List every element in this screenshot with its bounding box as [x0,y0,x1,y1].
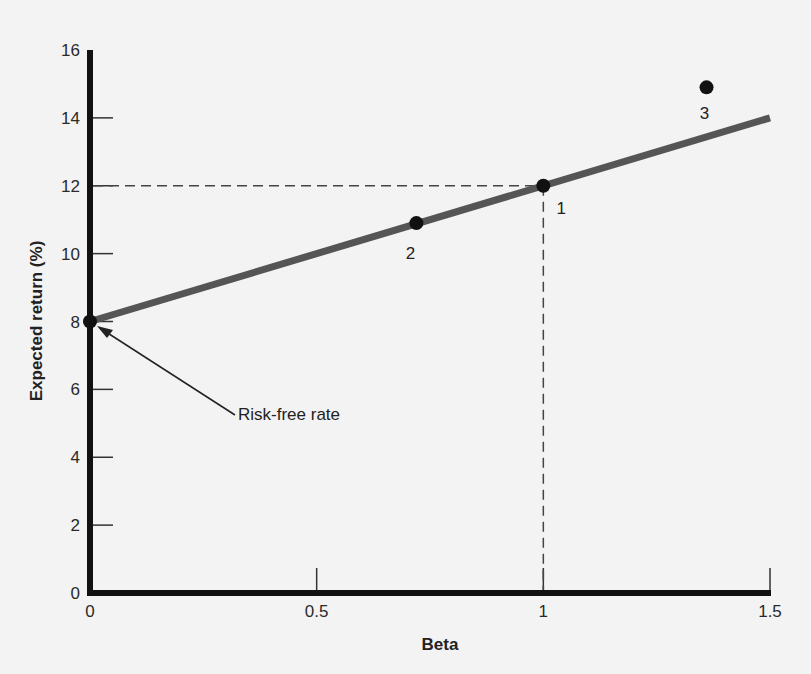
y-tick-label: 12 [61,177,80,196]
x-axis-title: Beta [422,635,459,654]
data-points: 123 [406,80,714,263]
arrowhead-icon [97,326,113,338]
x-tick-label: 1.5 [758,602,782,621]
data-point [536,179,550,193]
risk-free-annotation: Risk-free rate [97,326,340,424]
point-label: 2 [406,244,415,263]
point-label: 3 [700,104,709,123]
y-tick-label: 8 [71,313,80,332]
y-tick-label: 2 [71,516,80,535]
y-tick-label: 16 [61,41,80,60]
sml-chart: 0246810121416 00.511.5 123 Risk-free rat… [0,0,811,674]
point-label: 1 [557,199,566,218]
data-point [409,216,423,230]
y-axis-title: Expected return (%) [27,241,46,402]
y-tick-label: 10 [61,245,80,264]
x-tick-label: 1 [539,602,548,621]
risk-free-point [83,315,97,329]
y-tick-label: 14 [61,109,80,128]
security-market-line [90,118,770,322]
reference-lines [93,186,543,590]
y-tick-label: 4 [71,448,80,467]
y-tick-label: 6 [71,380,80,399]
data-point [700,80,714,94]
x-tick-label: 0 [85,602,94,621]
x-tick-label: 0.5 [305,602,329,621]
y-tick-label: 0 [71,584,80,603]
svg-text:Risk-free rate: Risk-free rate [238,405,340,424]
